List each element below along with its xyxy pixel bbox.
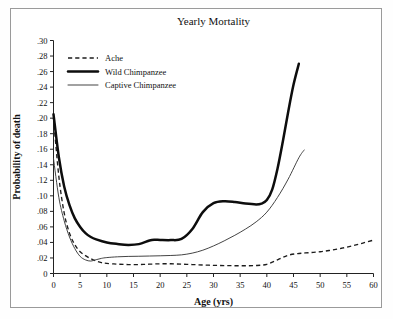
x-axis-tick-label: 40 — [263, 280, 272, 290]
series-line-wild-chimpanzee — [54, 64, 299, 245]
y-axis-tick-label: .10 — [37, 191, 48, 201]
chart-title: Yearly Mortality — [177, 15, 251, 27]
y-axis-tick-label: .26 — [37, 67, 48, 77]
y-axis-tick-label: 0 — [43, 269, 47, 279]
y-axis-tick-label: .04 — [37, 237, 48, 247]
y-axis-tick-label: .18 — [37, 129, 48, 139]
x-axis-tick-label: 10 — [103, 280, 112, 290]
x-axis-label: Age (yrs) — [194, 296, 233, 308]
legend-label-ache: Ache — [105, 53, 123, 63]
y-axis-tick-label: .22 — [37, 98, 48, 108]
series-line-ache — [54, 118, 374, 266]
y-axis-tick-label: .24 — [37, 82, 48, 92]
x-axis-tick-label: 0 — [51, 280, 55, 290]
y-axis-tick-label: .06 — [37, 222, 48, 232]
legend-label-captive-chimpanzee: Captive Chimpanzee — [105, 80, 176, 90]
y-axis-tick-label: .16 — [37, 144, 48, 154]
x-axis-tick-label: 5 — [78, 280, 82, 290]
y-axis-tick-label: .08 — [37, 206, 48, 216]
mortality-line-chart: Yearly Mortality0.02.04.06.08.10.12.14.1… — [0, 0, 393, 319]
y-axis-tick-label: .20 — [37, 113, 48, 123]
x-axis-tick-label: 15 — [129, 280, 138, 290]
x-axis-tick-label: 30 — [209, 280, 218, 290]
y-axis-tick-label: .14 — [37, 160, 48, 170]
x-axis-tick-label: 20 — [156, 280, 165, 290]
x-axis-tick-label: 55 — [343, 280, 352, 290]
y-axis-tick-label: .12 — [37, 175, 48, 185]
legend-label-wild-chimpanzee: Wild Chimpanzee — [105, 67, 166, 77]
y-axis-tick-label: .02 — [37, 253, 48, 263]
y-axis-label: Probability of death — [11, 114, 22, 200]
chart-figure: Yearly Mortality0.02.04.06.08.10.12.14.1… — [0, 0, 393, 319]
x-axis-tick-label: 25 — [183, 280, 192, 290]
series-line-captive-chimpanzee — [54, 150, 305, 261]
x-axis-tick-label: 50 — [316, 280, 325, 290]
x-axis-tick-label: 60 — [369, 280, 378, 290]
x-axis-tick-label: 45 — [289, 280, 298, 290]
y-axis-tick-label: .28 — [37, 51, 48, 61]
x-axis-tick-label: 35 — [236, 280, 245, 290]
y-axis-tick-label: .30 — [37, 36, 48, 46]
